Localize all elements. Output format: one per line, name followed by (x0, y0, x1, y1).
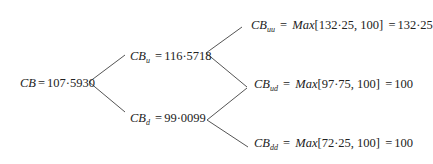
branch-u-down (206, 53, 247, 87)
node-ud-eq2: = (383, 77, 394, 91)
node-uu-args: [132·25, 100] (315, 18, 384, 32)
node-uu-var: CB (251, 18, 267, 32)
node-uu: CBuu = Max[132·25, 100] =132·25 (251, 18, 433, 37)
node-ud-eq: = (281, 77, 292, 91)
node-u-eq: = (153, 49, 164, 63)
node-d-eq: = (153, 111, 164, 125)
node-dd-eq2: = (383, 136, 394, 150)
node-ud-sub: ud (270, 84, 278, 93)
node-uu-sub: uu (267, 25, 275, 34)
node-dd-var: CB (254, 136, 270, 150)
node-d-sub: d (146, 118, 150, 127)
branch-d-up (207, 88, 247, 120)
node-dd: CBdd = Max[72·25, 100] =100 (254, 136, 413, 155)
node-uu-fn: Max (292, 18, 314, 32)
branch-d-down (207, 120, 248, 147)
node-ud-args: [97·75, 100] (318, 77, 381, 91)
node-dd-args: [72·25, 100] (318, 136, 381, 150)
node-d-value: 99·0099 (164, 111, 206, 125)
node-uu-eq: = (278, 18, 289, 32)
node-ud-value: 100 (394, 77, 413, 91)
node-uu-eq2: = (386, 18, 397, 32)
node-u-var: CB (130, 49, 146, 63)
node-root-value: 107·5930 (47, 76, 95, 90)
node-ud-fn: Max (295, 77, 317, 91)
node-ud-var: CB (254, 77, 270, 91)
node-u: CBu =116·5718 (130, 49, 212, 68)
node-uu-value: 132·25 (397, 18, 432, 32)
node-ud: CBud = Max[97·75, 100] =100 (254, 77, 413, 96)
node-dd-fn: Max (295, 136, 317, 150)
node-root: CB=107·5930 (20, 76, 95, 90)
node-u-sub: u (146, 56, 150, 65)
node-d-var: CB (130, 111, 146, 125)
node-d: CBd =99·0099 (130, 111, 206, 130)
node-u-value: 116·5718 (164, 49, 211, 63)
node-dd-eq: = (281, 136, 292, 150)
node-root-eq: = (36, 76, 47, 90)
node-root-var: CB (20, 76, 36, 90)
node-dd-value: 100 (394, 136, 413, 150)
node-dd-sub: dd (270, 143, 278, 152)
